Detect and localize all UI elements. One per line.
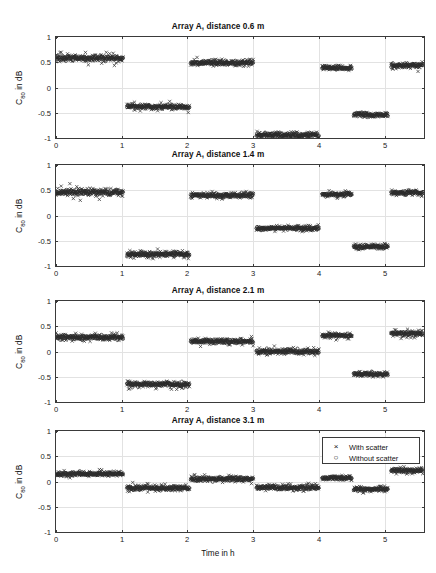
legend-entry-2: ○Without scatter xyxy=(323,452,419,464)
y-axis-label-unit: in dB xyxy=(14,334,24,355)
x-tick-label: 1 xyxy=(120,141,124,150)
y-axis-label-subscript: 80 xyxy=(20,92,26,99)
x-tick-mark xyxy=(319,400,320,403)
y-tick-mark xyxy=(422,216,425,217)
x-tick-mark xyxy=(385,36,386,39)
cross-marker: × xyxy=(323,443,349,451)
x-tick-mark xyxy=(122,136,123,139)
marker-with-scatter xyxy=(98,198,101,201)
x-tick-label: 4 xyxy=(317,535,321,544)
data-segment xyxy=(255,223,321,233)
marker-with-scatter xyxy=(170,388,173,391)
x-tick-mark xyxy=(319,264,320,267)
x-tick-label: 5 xyxy=(383,405,387,414)
x-tick-mark xyxy=(385,300,386,303)
marker-with-scatter xyxy=(146,490,149,493)
x-tick-mark xyxy=(56,530,57,533)
y-axis-label-symbol: C xyxy=(14,226,24,232)
plot-area-3 xyxy=(55,300,425,403)
x-tick-label: 1 xyxy=(120,405,124,414)
data-segment xyxy=(189,473,255,485)
x-tick-mark xyxy=(56,36,57,39)
x-tick-label: 2 xyxy=(185,405,189,414)
marker-with-scatter xyxy=(199,345,202,348)
x-tick-mark xyxy=(253,530,254,533)
data-segment xyxy=(125,247,191,260)
data-segment xyxy=(352,111,389,119)
y-tick-mark xyxy=(422,482,425,483)
data-segment xyxy=(56,468,125,480)
y-tick-mark xyxy=(422,402,425,403)
plot-area-1 xyxy=(55,36,425,139)
data-segment xyxy=(352,484,389,494)
x-tick-label: 3 xyxy=(251,535,255,544)
y-axis-label-subscript: 80 xyxy=(20,220,26,227)
marker-with-scatter xyxy=(133,101,136,104)
x-tick-label: 4 xyxy=(317,405,321,414)
x-tick-mark xyxy=(187,164,188,167)
y-axis-label-symbol: C xyxy=(14,362,24,368)
y-tick-label: -1 xyxy=(15,262,51,271)
y-tick-mark xyxy=(55,62,58,63)
y-tick-label: -1 xyxy=(15,134,51,143)
y-tick-mark xyxy=(55,190,58,191)
data-segment xyxy=(125,380,191,391)
x-tick-mark xyxy=(56,300,57,303)
data-segment xyxy=(189,56,255,68)
x-tick-mark xyxy=(122,530,123,533)
marker-with-scatter xyxy=(60,185,63,188)
data-segment xyxy=(255,130,321,138)
marker-with-scatter xyxy=(421,472,424,475)
x-tick-mark xyxy=(385,430,386,433)
y-tick-mark xyxy=(422,138,425,139)
panel-title-4: Array A, distance 3.1 m xyxy=(0,416,436,425)
y-tick-label: 1 xyxy=(15,33,51,42)
y-tick-label: 1 xyxy=(15,161,51,170)
y-axis-label: C80 in dB xyxy=(14,57,26,117)
x-tick-mark xyxy=(56,164,57,167)
data-segment xyxy=(321,330,354,341)
marker-with-scatter xyxy=(416,70,419,73)
marker-with-scatter xyxy=(175,388,178,391)
marker-with-scatter xyxy=(250,482,253,485)
data-segment xyxy=(352,370,389,379)
y-tick-mark xyxy=(55,482,58,483)
x-tick-mark xyxy=(385,164,386,167)
x-tick-mark xyxy=(319,36,320,39)
data-segment xyxy=(56,182,125,202)
circle-marker: ○ xyxy=(323,454,349,462)
y-tick-mark xyxy=(55,326,58,327)
x-tick-mark xyxy=(319,136,320,139)
marker-with-scatter xyxy=(168,100,171,103)
x-tick-label: 0 xyxy=(54,269,58,278)
marker-with-scatter xyxy=(87,63,90,66)
scatter-layer-2 xyxy=(56,165,424,266)
marker-with-scatter xyxy=(195,56,198,59)
data-segment xyxy=(125,481,191,494)
x-tick-mark xyxy=(385,136,386,139)
data-segment xyxy=(321,189,354,200)
panel-title-3: Array A, distance 2.1 m xyxy=(0,286,436,295)
panel-title-2: Array A, distance 1.4 m xyxy=(0,150,436,159)
x-tick-mark xyxy=(122,264,123,267)
x-tick-mark xyxy=(253,300,254,303)
legend-label-1: With scatter xyxy=(349,443,388,452)
panel-title-1: Array A, distance 0.6 m xyxy=(0,22,436,31)
data-segment xyxy=(321,64,354,72)
x-tick-mark xyxy=(122,300,123,303)
y-tick-mark xyxy=(422,37,425,38)
data-segment xyxy=(56,331,125,343)
x-tick-label: 5 xyxy=(383,535,387,544)
y-tick-label: -1 xyxy=(15,528,51,537)
legend-label-2: Without scatter xyxy=(349,454,398,463)
data-segment xyxy=(390,465,424,476)
y-tick-mark xyxy=(55,88,58,89)
data-segment xyxy=(390,188,424,197)
x-tick-label: 0 xyxy=(54,141,58,150)
x-tick-mark xyxy=(385,400,386,403)
marker-with-scatter xyxy=(68,182,71,185)
data-segment xyxy=(189,190,255,201)
x-tick-mark xyxy=(187,530,188,533)
x-tick-mark xyxy=(385,264,386,267)
y-axis-label-unit: in dB xyxy=(14,70,24,91)
